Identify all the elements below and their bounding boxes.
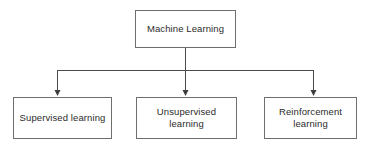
arrowhead-unsupervised — [183, 90, 189, 96]
arrowhead-supervised — [55, 90, 61, 96]
node-unsupervised-learning: Unsupervised learning — [136, 97, 237, 139]
node-supervised-learning: Supervised learning — [13, 97, 112, 139]
node-label-unsupervised-learning: Unsupervised learning — [154, 106, 219, 130]
node-label-supervised-learning: Supervised learning — [17, 112, 109, 124]
arrowhead-reinforcement — [311, 90, 317, 96]
node-reinforcement-learning: Reinforcement learning — [264, 97, 357, 139]
node-label-machine-learning: Machine Learning — [144, 23, 227, 35]
machine-learning-flowchart: Machine Learning Supervised learning Uns… — [0, 0, 368, 148]
node-machine-learning: Machine Learning — [135, 10, 236, 48]
node-label-reinforcement-learning: Reinforcement learning — [276, 106, 345, 130]
